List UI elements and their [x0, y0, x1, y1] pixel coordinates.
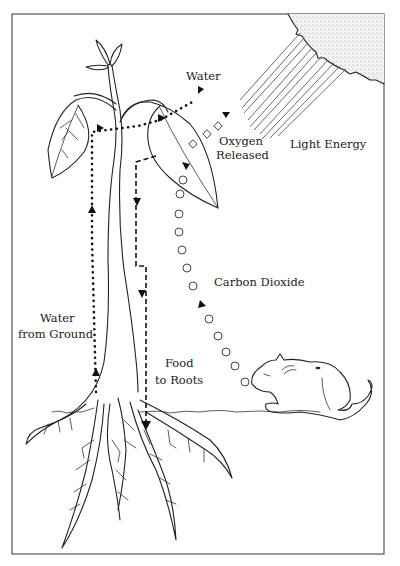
label-released: Released	[216, 148, 270, 162]
arrow-up-right-icon	[198, 86, 204, 94]
food-to-roots-flow	[133, 156, 156, 430]
label-water-ground-1: Water	[40, 311, 75, 325]
label-water-ground-2: from Ground	[18, 327, 94, 341]
label-carbon-dioxide: Carbon Dioxide	[214, 275, 305, 289]
arrow-icon	[182, 162, 190, 170]
arrow-right-icon	[158, 114, 166, 122]
carbon-dioxide-flow	[175, 162, 249, 386]
label-light-energy: Light Energy	[290, 137, 367, 151]
diagram-frame	[12, 14, 384, 554]
arrow-up-icon	[88, 205, 96, 213]
label-oxygen: Oxygen	[219, 134, 264, 148]
arrow-icon	[198, 300, 206, 308]
ground-line	[52, 408, 320, 413]
label-food: Food	[165, 356, 194, 370]
arrow-down-icon	[133, 198, 141, 206]
photosynthesis-diagram: Water Oxygen Released Light Energy Carbo…	[0, 0, 400, 566]
label-water: Water	[186, 69, 221, 83]
mouse-illustration	[252, 354, 372, 420]
arrow-down-icon	[138, 290, 146, 298]
arrow-icon	[222, 112, 230, 118]
roots-illustration	[26, 392, 232, 548]
label-to-roots: to Roots	[155, 373, 203, 387]
arrow-up-icon	[92, 368, 100, 376]
arrow-down-icon	[141, 421, 151, 430]
